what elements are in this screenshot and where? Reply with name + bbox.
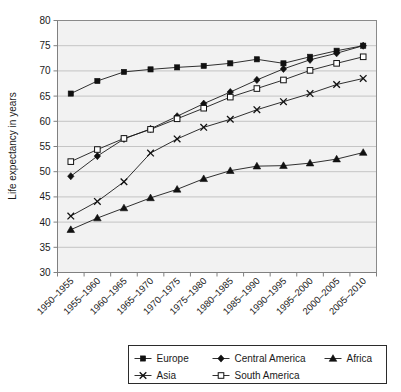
legend-label: Asia — [157, 370, 177, 381]
data-point — [228, 61, 233, 66]
data-point — [227, 94, 233, 100]
y-axis-tick-label: 75 — [39, 40, 51, 51]
y-axis-tick-label: 40 — [39, 217, 51, 228]
data-point — [307, 68, 313, 74]
data-point — [95, 78, 100, 83]
life-expectancy-line-chart: 3035404550556065707580Life expectancy in… — [0, 0, 401, 392]
data-point — [121, 136, 127, 142]
data-point — [360, 54, 366, 60]
data-point — [68, 159, 74, 165]
x-axis: 1950–19551955–19601960–19651965–19701970… — [34, 273, 376, 317]
data-point — [68, 91, 73, 96]
data-point — [121, 69, 126, 74]
data-point — [334, 61, 340, 67]
data-point — [148, 127, 154, 133]
data-point — [174, 116, 180, 122]
data-point — [175, 65, 180, 70]
y-axis-title: Life expectancy in years — [7, 92, 18, 199]
y-axis-tick-label: 35 — [39, 242, 51, 253]
y-axis: 3035404550556065707580 — [39, 15, 57, 278]
data-point — [95, 147, 101, 153]
data-point — [201, 63, 206, 68]
legend-label: Africa — [347, 353, 373, 364]
data-point — [201, 105, 207, 111]
data-point — [254, 86, 260, 92]
legend-marker-square-filled — [140, 356, 145, 361]
y-axis-tick-label: 55 — [39, 141, 51, 152]
y-axis-tick-label: 45 — [39, 191, 51, 202]
data-point — [281, 77, 287, 83]
y-axis-tick-label: 80 — [39, 15, 51, 26]
legend-marker-square-open — [218, 373, 224, 379]
y-axis-tick-label: 60 — [39, 116, 51, 127]
legend-label: Central America — [235, 353, 307, 364]
legend: EuropeCentral AmericaAfricaAsiaSouth Ame… — [129, 346, 387, 384]
legend-label: Europe — [157, 353, 190, 364]
data-point — [148, 67, 153, 72]
data-point — [254, 57, 259, 62]
y-axis-tick-label: 30 — [39, 267, 51, 278]
legend-label: South America — [235, 370, 300, 381]
y-axis-tick-label: 70 — [39, 65, 51, 76]
y-axis-tick-label: 65 — [39, 91, 51, 102]
chart-canvas: 3035404550556065707580Life expectancy in… — [0, 0, 401, 392]
y-axis-tick-label: 50 — [39, 166, 51, 177]
